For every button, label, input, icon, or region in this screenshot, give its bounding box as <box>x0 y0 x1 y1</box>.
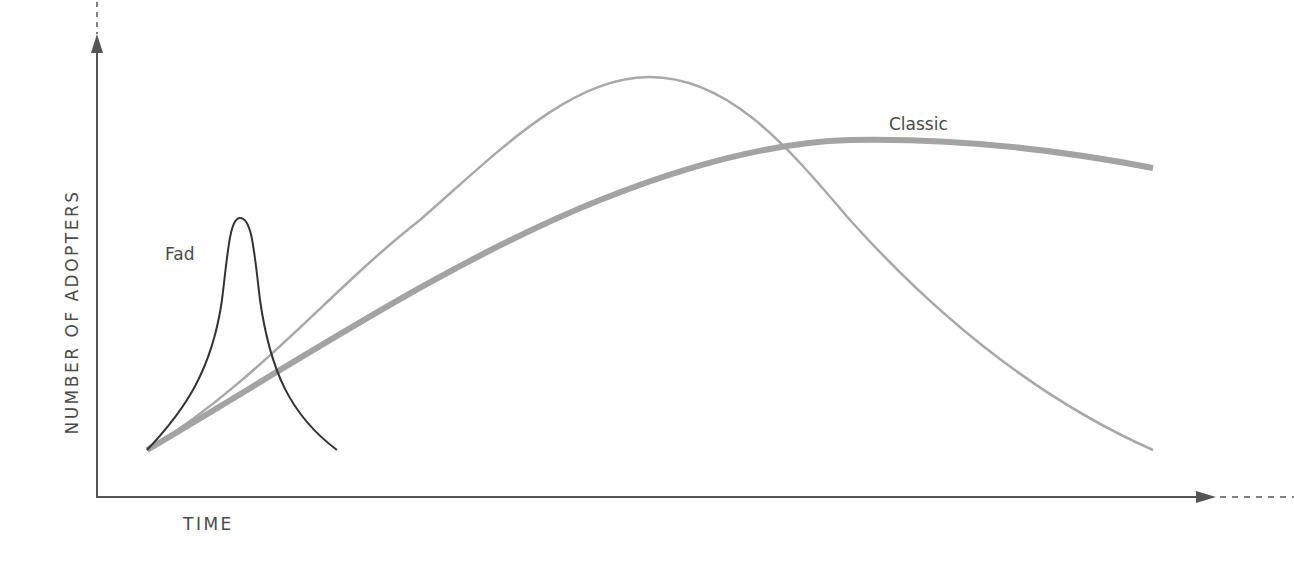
classic-curve <box>147 140 1153 450</box>
y-axis-label: NUMBER OF ADOPTERS <box>62 189 82 434</box>
fad-label: Fad <box>165 244 194 264</box>
adoption-curve-diagram: Fad Classic TIME NUMBER OF ADOPTERS <box>0 0 1294 573</box>
x-axis-arrow-icon <box>1196 491 1216 503</box>
middle-curve <box>147 77 1153 450</box>
classic-label: Classic <box>889 114 948 134</box>
y-axis-arrow-icon <box>91 34 103 53</box>
x-axis-label: TIME <box>182 514 234 534</box>
